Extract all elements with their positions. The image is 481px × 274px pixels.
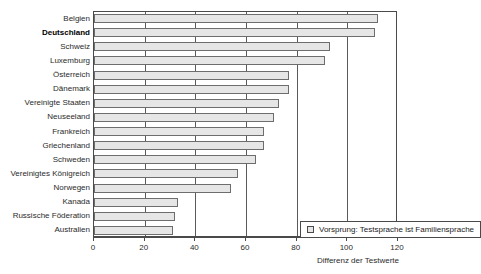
y-axis-label-dänemark: Dänemark — [0, 84, 90, 93]
legend-swatch-icon — [307, 226, 314, 233]
y-axis-label-frankreich: Frankreich — [0, 127, 90, 136]
y-axis-label-luxemburg: Luxemburg — [0, 56, 90, 65]
bar-frankreich — [94, 127, 264, 136]
y-axis-label-vereinigtes-königreich: Vereinigtes Königreich — [0, 169, 90, 178]
bar-norwegen — [94, 184, 231, 193]
y-axis-label-schweiz: Schweiz — [0, 42, 90, 51]
legend-label: Vorsprung: Testsprache ist Familiensprac… — [319, 225, 474, 234]
x-tick-60 — [245, 237, 246, 241]
x-tick-0 — [93, 237, 94, 241]
bar-schweden — [94, 155, 256, 164]
bar-row — [94, 139, 396, 153]
bar-row — [94, 111, 396, 125]
bar-vereinigtes-königreich — [94, 169, 238, 178]
plot-area: Vorsprung: Testsprache ist Familiensprac… — [93, 11, 397, 237]
x-tick-20 — [144, 237, 145, 241]
bar-row — [94, 153, 396, 167]
y-axis-label-schweden: Schweden — [0, 155, 90, 164]
bar-row — [94, 54, 396, 68]
bar-row — [94, 97, 396, 111]
bar-belgien — [94, 14, 378, 23]
bar-australien — [94, 226, 173, 235]
bar-deutschland — [94, 28, 375, 37]
x-tick-label-0: 0 — [91, 243, 95, 252]
bar-neuseeland — [94, 113, 274, 122]
bar-row — [94, 125, 396, 139]
x-tick-label-80: 80 — [291, 243, 300, 252]
bars-layer — [94, 12, 396, 236]
bar-row — [94, 40, 396, 54]
bar-kanada — [94, 198, 178, 207]
y-axis-label-deutschland: Deutschland — [0, 28, 90, 37]
bar-griechenland — [94, 141, 264, 150]
bar-row — [94, 12, 396, 26]
y-axis-label-russische-föderation: Russische Föderation — [0, 211, 90, 220]
y-axis-label-österreich: Österreich — [0, 70, 90, 79]
x-tick-label-100: 100 — [340, 243, 353, 252]
bar-vereinigte-staaten — [94, 99, 279, 108]
bar-russische-föderation — [94, 212, 175, 221]
y-axis-label-australien: Australien — [0, 225, 90, 234]
x-tick-label-20: 20 — [139, 243, 148, 252]
y-axis-label-griechenland: Griechenland — [0, 141, 90, 150]
y-axis-label-norwegen: Norwegen — [0, 183, 90, 192]
bar-row — [94, 182, 396, 196]
bar-österreich — [94, 71, 289, 80]
bar-luxemburg — [94, 56, 325, 65]
y-axis-label-belgien: Belgien — [0, 14, 90, 23]
bar-dänemark — [94, 85, 289, 94]
x-tick-label-120: 120 — [390, 243, 403, 252]
bar-row — [94, 69, 396, 83]
chart-title — [92, 0, 392, 2]
y-axis-label-vereinigte-staaten: Vereinigte Staaten — [0, 98, 90, 107]
x-tick-100 — [346, 237, 347, 241]
x-tick-120 — [397, 237, 398, 241]
bar-row — [94, 26, 396, 40]
y-axis-category-labels: BelgienDeutschlandSchweizLuxemburgÖsterr… — [0, 11, 90, 237]
y-axis-label-neuseeland: Neuseeland — [0, 112, 90, 121]
chart-legend: Vorsprung: Testsprache ist Familiensprac… — [300, 221, 481, 238]
x-tick-label-40: 40 — [190, 243, 199, 252]
x-axis-title: Differenz der Testwerte — [317, 256, 399, 265]
bar-schweiz — [94, 42, 330, 51]
x-tick-80 — [296, 237, 297, 241]
bar-row — [94, 167, 396, 181]
chart-footnote — [8, 270, 208, 274]
y-axis-label-kanada: Kanada — [0, 197, 90, 206]
x-tick-label-60: 60 — [241, 243, 250, 252]
bar-row — [94, 196, 396, 210]
x-tick-40 — [194, 237, 195, 241]
bar-row — [94, 83, 396, 97]
